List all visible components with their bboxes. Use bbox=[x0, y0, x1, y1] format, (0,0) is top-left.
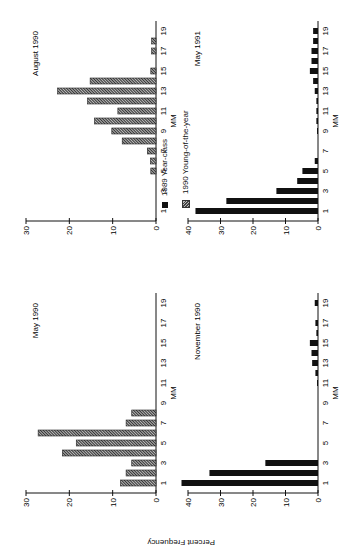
x-tick-label: 17 bbox=[159, 318, 168, 327]
bar bbox=[151, 68, 156, 74]
bar bbox=[152, 38, 156, 44]
bar bbox=[94, 118, 156, 124]
panel-title: May 1990 bbox=[31, 302, 40, 338]
bar bbox=[58, 88, 156, 94]
plot-area: 010203040135791113151719MMNovember 1990 bbox=[182, 293, 339, 507]
x-tick-label: 3 bbox=[321, 188, 330, 193]
bar bbox=[90, 78, 156, 84]
y-tick-label: 40 bbox=[184, 497, 193, 506]
x-tick-label: 19 bbox=[159, 298, 168, 307]
x-tick-label: 15 bbox=[159, 338, 168, 347]
bar bbox=[317, 380, 318, 386]
x-tick-label: 3 bbox=[321, 460, 330, 465]
y-tick-label: 0 bbox=[314, 225, 323, 230]
bar bbox=[112, 128, 156, 134]
bar bbox=[315, 320, 318, 326]
y-tick-label: 30 bbox=[22, 225, 31, 234]
panel-title: November 1990 bbox=[193, 302, 202, 359]
panel-title: May 1991 bbox=[193, 30, 202, 66]
x-tick-label: 17 bbox=[321, 318, 330, 327]
legend-label: 1989 Year-class bbox=[160, 139, 169, 196]
y-tick-label: 30 bbox=[217, 225, 226, 234]
bar bbox=[88, 98, 156, 104]
x-axis-label: MM bbox=[331, 114, 339, 128]
bar bbox=[316, 118, 318, 124]
bar bbox=[310, 68, 318, 74]
x-tick-label: 5 bbox=[321, 168, 330, 173]
y-tick-label: 20 bbox=[249, 225, 258, 234]
x-tick-label: 19 bbox=[321, 298, 330, 307]
bar bbox=[76, 440, 156, 446]
y-tick-label: 20 bbox=[65, 225, 74, 234]
y-tick-label: 0 bbox=[152, 497, 161, 502]
x-tick-label: 5 bbox=[159, 440, 168, 445]
x-axis-label: MM bbox=[331, 386, 339, 400]
bar bbox=[150, 158, 156, 164]
legend: 1989 Year-class 1990 Young-of-the-year bbox=[160, 110, 190, 208]
panel-november-1990: 010203040135791113151719MMNovember 1990 bbox=[180, 283, 339, 515]
x-tick-label: 13 bbox=[159, 358, 168, 367]
bar bbox=[122, 138, 156, 144]
y-tick-label: 20 bbox=[65, 497, 74, 506]
x-tick-label: 7 bbox=[321, 148, 330, 153]
x-tick-label: 7 bbox=[159, 420, 168, 425]
y-tick-label: 0 bbox=[152, 225, 161, 230]
y-tick-label: 10 bbox=[282, 225, 291, 234]
bar bbox=[195, 208, 318, 214]
y-tick-label: 0 bbox=[314, 497, 323, 502]
legend-label: 1990 Young-of-the-year bbox=[181, 110, 190, 194]
bar bbox=[315, 158, 318, 164]
y-tick-label: 20 bbox=[249, 497, 258, 506]
bar bbox=[62, 450, 156, 456]
bar bbox=[312, 360, 318, 366]
panel-may-1991: 010203040135791113151719MMMay 1991 bbox=[180, 11, 339, 243]
bar bbox=[315, 370, 318, 376]
bar bbox=[276, 188, 318, 194]
x-tick-label: 17 bbox=[159, 46, 168, 55]
bar bbox=[313, 28, 318, 34]
x-tick-label: 11 bbox=[321, 378, 330, 387]
bar bbox=[312, 58, 319, 64]
y-tick-label: 10 bbox=[282, 497, 291, 506]
x-tick-label: 9 bbox=[159, 400, 168, 405]
plot-area: 0102030135791113151719MMAugust 1990 bbox=[22, 21, 178, 235]
bar bbox=[265, 460, 318, 466]
x-tick-label: 19 bbox=[321, 26, 330, 35]
x-tick-label: 19 bbox=[159, 26, 168, 35]
legend-item-1989: 1989 Year-class bbox=[160, 110, 169, 208]
x-tick-label: 1 bbox=[321, 480, 330, 485]
x-tick-label: 17 bbox=[321, 46, 330, 55]
x-axis-label: MM bbox=[169, 386, 178, 400]
plot-area: 0102030135791113151719MMMay 1990 bbox=[22, 293, 178, 507]
hatched-swatch-icon bbox=[182, 200, 190, 208]
y-tick-label: 10 bbox=[109, 497, 118, 506]
bar bbox=[316, 330, 318, 336]
x-tick-label: 1 bbox=[159, 480, 168, 485]
legend-item-1990: 1990 Young-of-the-year bbox=[181, 110, 190, 208]
bar bbox=[132, 410, 156, 416]
x-tick-label: 13 bbox=[321, 86, 330, 95]
bar bbox=[151, 168, 156, 174]
x-tick-label: 3 bbox=[159, 460, 168, 465]
bar bbox=[312, 48, 319, 54]
bar bbox=[209, 470, 318, 476]
y-tick-label: 40 bbox=[184, 225, 193, 234]
bar bbox=[226, 198, 318, 204]
x-tick-label: 7 bbox=[321, 420, 330, 425]
bar bbox=[313, 78, 318, 84]
bar bbox=[182, 480, 319, 486]
panel-may-1990: 0102030135791113151719MMMay 1990 bbox=[18, 283, 190, 515]
bar bbox=[315, 300, 318, 306]
bar bbox=[147, 148, 156, 154]
bar bbox=[312, 350, 319, 356]
bar bbox=[315, 88, 318, 94]
x-tick-label: 9 bbox=[321, 128, 330, 133]
bar bbox=[118, 108, 156, 114]
bar bbox=[302, 168, 318, 174]
panel-title: August 1990 bbox=[31, 30, 40, 75]
x-tick-label: 13 bbox=[159, 86, 168, 95]
y-tick-label: 10 bbox=[109, 225, 118, 234]
bar bbox=[297, 178, 318, 184]
x-tick-label: 13 bbox=[321, 358, 330, 367]
bar bbox=[132, 460, 156, 466]
